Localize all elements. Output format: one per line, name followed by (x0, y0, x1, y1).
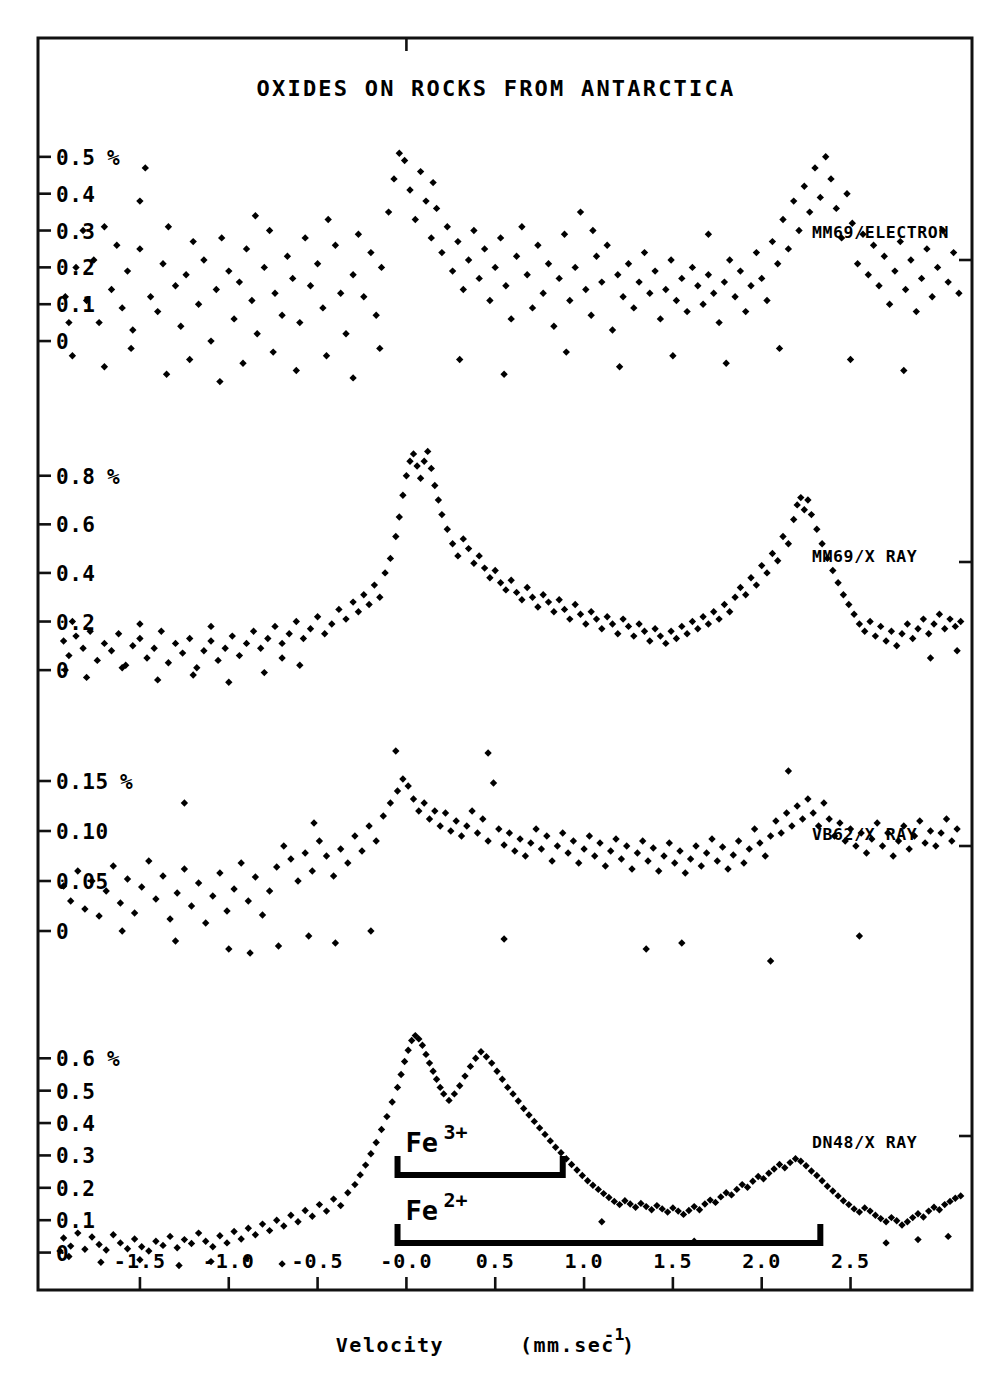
y-axis-unit: % (107, 1047, 120, 1071)
y-tick-label: 0 (56, 1242, 69, 1266)
y-tick-label: 0.4 (56, 1112, 95, 1136)
y-tick-label: 0.15 (56, 770, 109, 794)
y-tick-label: 0.5 (56, 146, 95, 170)
y-tick-label: 0.6 (56, 1047, 95, 1071)
x-tick-label: -1.5 (114, 1249, 166, 1273)
x-tick-label: 0.5 (476, 1249, 515, 1273)
figure-background (0, 0, 992, 1391)
y-axis-unit: % (107, 465, 120, 489)
y-axis-unit: % (120, 770, 133, 794)
x-tick-label: -0.5 (292, 1249, 344, 1273)
x-tick-label: 1.5 (653, 1249, 692, 1273)
y-tick-label: 0.6 (56, 513, 95, 537)
x-tick-label: 2.0 (742, 1249, 781, 1273)
y-tick-label: 0.3 (56, 220, 95, 244)
y-tick-label: 0.4 (56, 183, 95, 207)
y-axis-unit: % (107, 146, 120, 170)
y-tick-label: 0 (56, 330, 69, 354)
annotation-label: Fe (406, 1195, 439, 1226)
annotation-superscript: 3+ (444, 1120, 468, 1144)
annotation-label: Fe (406, 1127, 439, 1158)
x-axis-title-paren: ) (622, 1333, 636, 1357)
y-tick-label: 0.2 (56, 1177, 95, 1201)
mossbauer-spectra-figure: OXIDES ON ROCKS FROM ANTARCTICA00.10.20.… (0, 0, 992, 1391)
y-tick-label: 0.3 (56, 1144, 95, 1168)
series-label-mm69-electron: MM69/ELECTRON (812, 223, 949, 242)
x-tick-label: -0.0 (380, 1249, 432, 1273)
x-axis-title-main: Velocity (336, 1333, 444, 1357)
y-tick-label: 0.1 (56, 1209, 95, 1233)
x-tick-label: 2.5 (831, 1249, 870, 1273)
y-tick-label: 0.10 (56, 820, 109, 844)
x-tick-label: -1.0 (203, 1249, 255, 1273)
x-tick-label: 1.0 (564, 1249, 603, 1273)
y-tick-label: 0.5 (56, 1080, 95, 1104)
y-tick-label: 0 (56, 920, 69, 944)
y-tick-label: 0.05 (56, 870, 109, 894)
annotation-superscript: 2+ (444, 1188, 468, 1212)
x-axis-title-units: (mm.sec (520, 1333, 615, 1357)
series-label-vb62-x-ray: VB62/X RAY (812, 825, 917, 844)
y-tick-label: 0.4 (56, 562, 95, 586)
chart-title: OXIDES ON ROCKS FROM ANTARCTICA (257, 76, 736, 101)
series-label-dn48-x-ray: DN48/X RAY (812, 1133, 917, 1152)
y-tick-label: 0.8 (56, 465, 95, 489)
series-label-mm69-x-ray: MM69/X RAY (812, 547, 917, 566)
